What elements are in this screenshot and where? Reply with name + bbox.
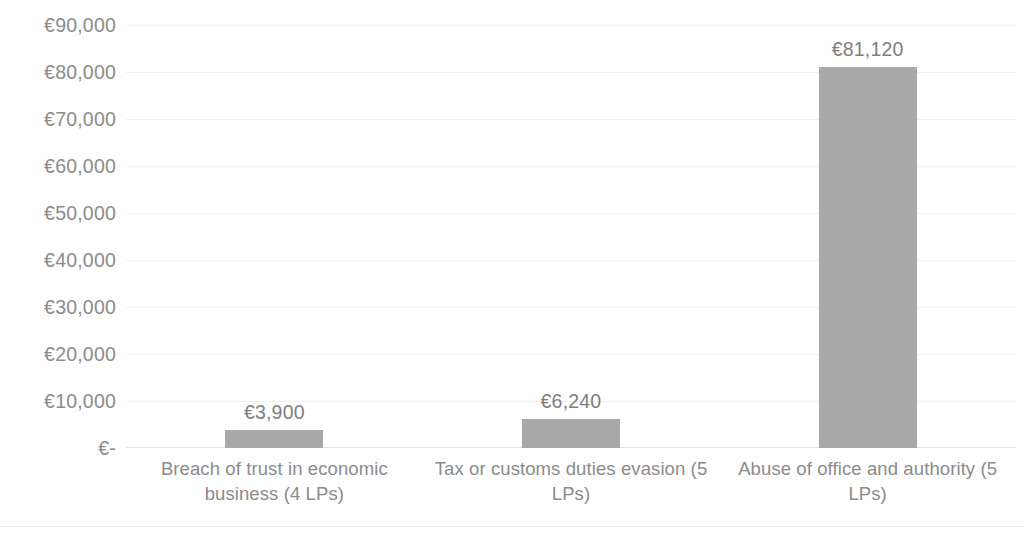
y-axis-tick-label: €60,000	[0, 155, 116, 178]
y-axis-tick-label: €10,000	[0, 390, 116, 413]
bar-group: €81,120	[819, 25, 917, 448]
x-axis-category-label: Tax or customs duties evasion (5 LPs)	[423, 456, 720, 506]
y-axis: €90,000 €80,000 €70,000 €60,000 €50,000 …	[0, 0, 126, 535]
scan-artifact-line	[0, 526, 1024, 527]
bar-group: €3,900	[225, 25, 323, 448]
y-axis-tick-label: €20,000	[0, 343, 116, 366]
bar-value-label: €6,240	[541, 390, 602, 413]
y-axis-tick-label: €50,000	[0, 202, 116, 225]
bar-chart: €90,000 €80,000 €70,000 €60,000 €50,000 …	[0, 0, 1024, 535]
bar[interactable]	[522, 419, 620, 448]
plot-area: €3,900 €6,240 €81,120	[126, 25, 1016, 448]
y-axis-tick-label: €-	[0, 437, 116, 460]
x-axis: Breach of trust in economic business (4 …	[126, 456, 1016, 518]
y-axis-tick-label: €40,000	[0, 249, 116, 272]
x-axis-category-label: Breach of trust in economic business (4 …	[126, 456, 423, 506]
y-axis-tick-label: €30,000	[0, 296, 116, 319]
y-axis-tick-label: €70,000	[0, 108, 116, 131]
bars-layer: €3,900 €6,240 €81,120	[126, 25, 1016, 448]
bar[interactable]	[225, 430, 323, 448]
y-axis-tick-label: €90,000	[0, 14, 116, 37]
x-axis-category-label: Abuse of office and authority (5 LPs)	[719, 456, 1016, 506]
bar-value-label: €81,120	[832, 38, 904, 61]
y-axis-tick-label: €80,000	[0, 61, 116, 84]
bar-value-label: €3,900	[244, 401, 305, 424]
bar[interactable]	[819, 67, 917, 448]
bar-group: €6,240	[522, 25, 620, 448]
